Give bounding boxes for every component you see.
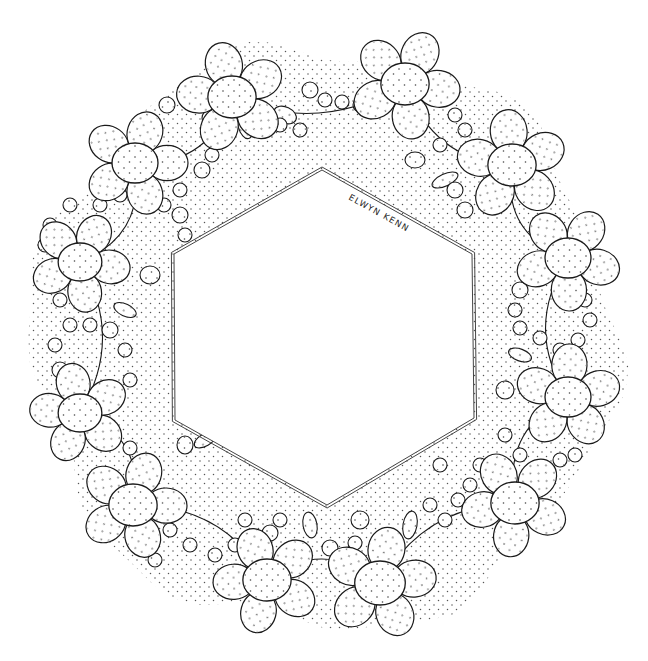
wreath-drawing — [0, 0, 648, 661]
